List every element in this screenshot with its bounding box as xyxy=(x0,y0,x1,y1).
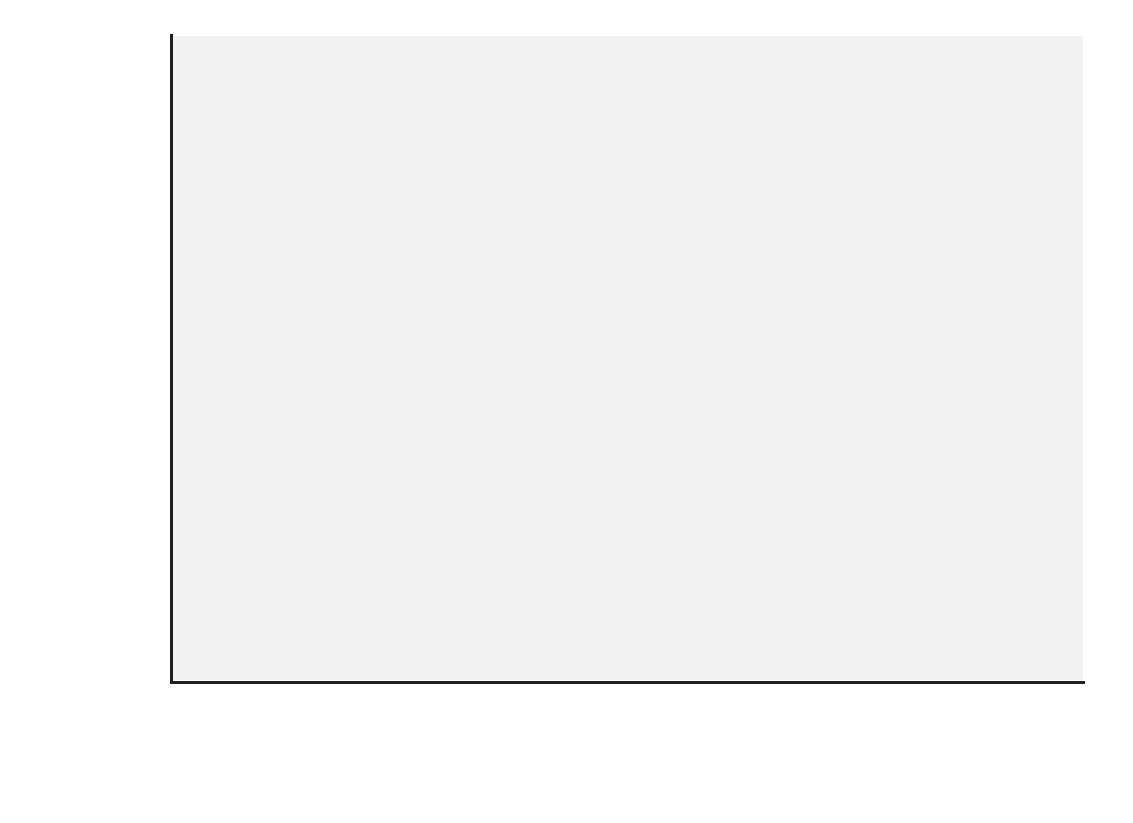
chart-figure xyxy=(0,0,1133,823)
chart-legend xyxy=(172,726,972,806)
y-axis-line xyxy=(170,34,173,684)
chart-title xyxy=(10,0,1110,2)
x-axis-line xyxy=(170,681,1085,684)
plot-area xyxy=(172,36,1083,680)
plot-background xyxy=(172,36,1083,680)
